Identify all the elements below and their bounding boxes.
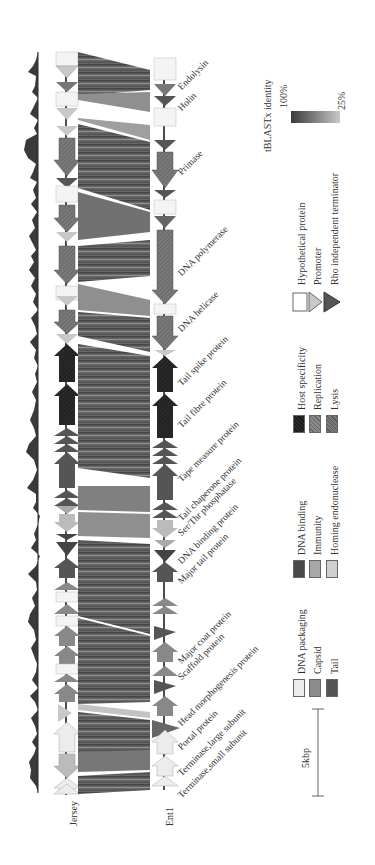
swatch-capsid (309, 679, 321, 697)
genome-label-ent1: Ent1 (164, 807, 175, 826)
legend-host-specificity: Host specificity (296, 347, 307, 410)
legend-replication: Replication (312, 364, 323, 410)
swatch-host-specificity (293, 415, 305, 433)
legend-rho-terminator: Rho independent terminator (329, 173, 340, 285)
identity-gradient-bar (291, 111, 340, 123)
swatch-replication (309, 415, 321, 433)
gc-content-track (24, 52, 40, 793)
jersey-gene-track (54, 52, 80, 795)
legend-capsid: Capsid (312, 646, 323, 674)
legend-promoter: Promoter (312, 248, 323, 285)
legend-immunity: Immunity (312, 516, 323, 555)
swatch-immunity (309, 560, 321, 578)
identity-max-label: 100% (278, 85, 289, 108)
swatch-tail (326, 679, 338, 697)
legend-dna-packaging: DNA packaging (296, 609, 307, 674)
legend-lysis: Lysis (329, 389, 340, 410)
legend-hypothetical-protein: Hypothetical protein (296, 203, 307, 285)
legend-tail: Tail (329, 659, 340, 674)
legend-dna-binding: DNA binding (296, 501, 307, 555)
ent1-gene-track (152, 58, 180, 790)
genome-label-jersey: Jersey (68, 801, 79, 826)
swatch-homing-endonuclease (326, 560, 338, 578)
swatch-dna-binding (293, 560, 305, 578)
tblastx-similarity-bands (78, 52, 150, 794)
legend-symbol-shapes (293, 292, 340, 312)
scale-bar-label: 5kbp (300, 748, 311, 768)
swatch-lysis (326, 415, 338, 433)
identity-title: tBLASTx identity (262, 80, 273, 153)
identity-min-label: 25% (336, 92, 347, 110)
scale-bar (312, 709, 324, 796)
swatch-dna-packaging (293, 679, 305, 697)
legend-homing-endonuclease: Homing endonuclease (329, 466, 340, 555)
